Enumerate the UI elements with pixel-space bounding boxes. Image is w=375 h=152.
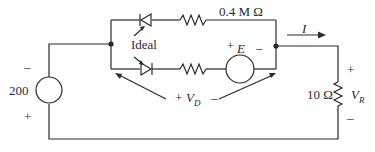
resistor-bottom	[180, 64, 206, 74]
e-minus: –	[256, 41, 263, 54]
node-left	[108, 41, 113, 46]
wire-left-top	[49, 44, 111, 77]
circuit-wires	[0, 0, 375, 152]
vd-plus: +	[175, 91, 182, 104]
voltage-source-200	[36, 77, 62, 103]
vr-letter: V	[351, 87, 359, 102]
node-right	[273, 43, 278, 48]
vd-symbol: VD	[186, 91, 200, 108]
vr-subscript: R	[359, 95, 365, 105]
wire-right-top	[276, 46, 338, 82]
resistor-top	[180, 15, 206, 25]
voltage-source-E	[226, 55, 254, 83]
vd-minus: –	[211, 91, 218, 104]
source-minus: –	[24, 60, 31, 73]
load-minus: –	[347, 111, 354, 124]
load-plus: +	[347, 63, 354, 76]
resistor-load	[334, 82, 342, 106]
e-symbol: E	[237, 42, 245, 55]
load-resistor-label: 10 Ω	[307, 88, 333, 101]
source-plus: +	[24, 110, 31, 123]
e-plus: +	[227, 40, 234, 52]
diode-top	[141, 14, 151, 26]
vd-subscript: D	[194, 98, 201, 108]
diode-ideal-label: Ideal	[131, 38, 157, 51]
current-label: I	[302, 22, 306, 35]
vd-letter: V	[186, 90, 194, 105]
source-value: 200	[9, 84, 29, 97]
resistor-top-label: 0.4 M Ω	[219, 5, 263, 18]
wire-bottom	[49, 104, 338, 139]
current-arrow-head	[318, 32, 326, 39]
diode-bottom	[141, 63, 151, 75]
circuit-diagram: – 200 + 0.4 M Ω Ideal + E – + VD – I + 1…	[0, 0, 375, 152]
vr-symbol: VR	[351, 88, 364, 105]
